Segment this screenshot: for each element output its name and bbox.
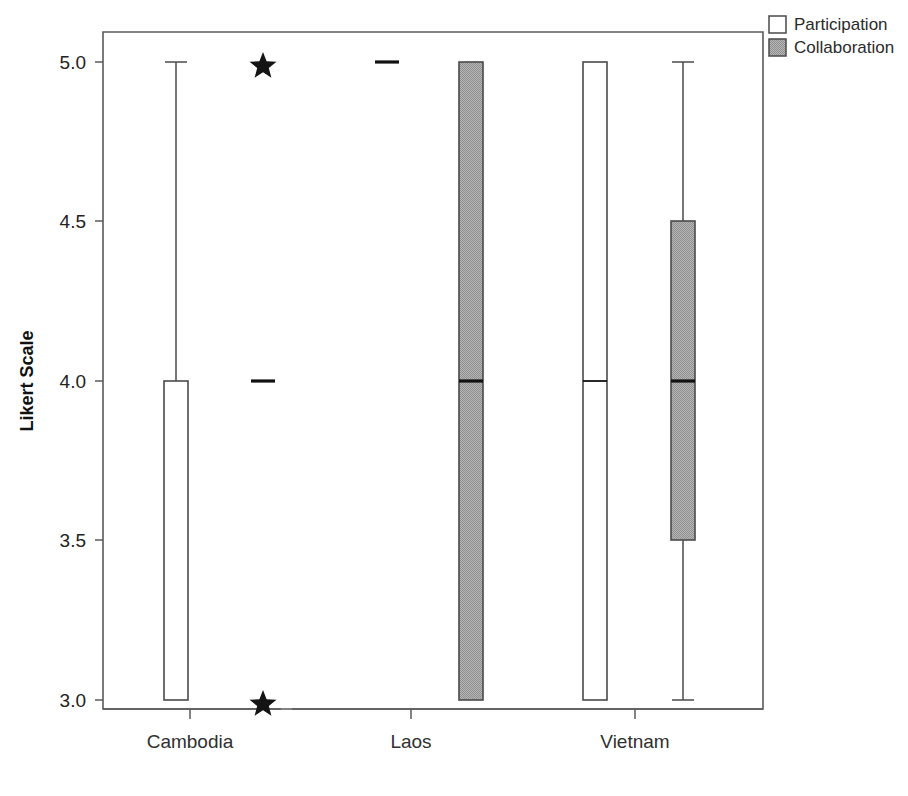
group-cambodia	[164, 52, 277, 716]
boxplot-chart: 5.0 4.5 4.0 3.5 3.0 Likert Scale Cambodi…	[0, 0, 908, 796]
outlier-star-upper	[250, 52, 277, 78]
y-tick-label-3_5: 3.5	[60, 530, 86, 551]
y-tick-label-4_5: 4.5	[60, 211, 86, 232]
boxplot-svg: 5.0 4.5 4.0 3.5 3.0 Likert Scale Cambodi…	[0, 0, 908, 796]
plot-frame	[103, 32, 763, 709]
x-axis	[103, 709, 763, 719]
legend-item-collaboration[interactable]: Collaboration	[769, 38, 894, 57]
y-axis-tick-labels: 5.0 4.5 4.0 3.5 3.0	[60, 52, 86, 711]
box-rect	[164, 381, 188, 700]
outlier-star-lower	[250, 690, 277, 716]
x-label-laos: Laos	[390, 731, 431, 752]
x-label-cambodia: Cambodia	[147, 731, 234, 752]
box-vietnam-collaboration[interactable]	[671, 62, 695, 700]
group-vietnam	[583, 62, 695, 700]
y-tick-label-3_0: 3.0	[60, 690, 86, 711]
box-vietnam-participation[interactable]	[583, 62, 607, 700]
y-tick-label-4_0: 4.0	[60, 371, 86, 392]
y-axis-ticks	[95, 62, 103, 700]
legend-label-participation: Participation	[794, 15, 888, 34]
legend-swatch-collaboration	[769, 39, 786, 56]
legend-label-collaboration: Collaboration	[794, 38, 894, 57]
box-cambodia-collaboration[interactable]	[250, 52, 277, 716]
legend-swatch-participation	[769, 16, 786, 33]
x-label-vietnam: Vietnam	[600, 731, 669, 752]
x-axis-category-labels: Cambodia Laos Vietnam	[147, 731, 670, 752]
legend-item-participation[interactable]: Participation	[769, 15, 888, 34]
box-laos-collaboration[interactable]	[459, 62, 483, 700]
y-axis-title: Likert Scale	[17, 330, 37, 431]
group-laos	[375, 62, 483, 700]
y-tick-label-5_0: 5.0	[60, 52, 86, 73]
box-cambodia-participation[interactable]	[164, 62, 188, 700]
legend: Participation Collaboration	[769, 15, 894, 57]
